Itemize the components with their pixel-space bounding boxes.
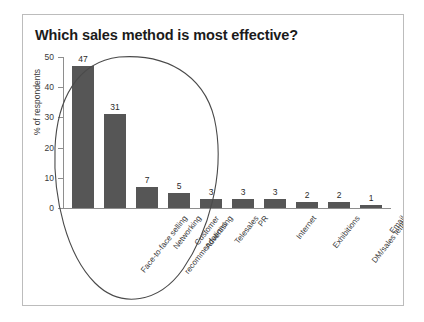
x-axis-line (63, 208, 391, 209)
y-tick-label: 40 (34, 82, 54, 92)
y-axis-line (63, 57, 64, 209)
bar (168, 193, 190, 208)
y-tick-mark (58, 208, 63, 209)
bar-value-label: 7 (130, 175, 164, 185)
y-tick-mark (58, 87, 63, 88)
x-category-label: Exhibitions (331, 214, 362, 250)
bar-value-label: 5 (162, 181, 196, 191)
y-axis-title: % of respondents (32, 54, 42, 150)
y-tick-label: 20 (34, 143, 54, 153)
y-tick-label: 10 (34, 173, 54, 183)
y-tick-label: 50 (34, 52, 54, 62)
bar (104, 114, 126, 208)
bar (72, 66, 94, 208)
bar (328, 202, 350, 208)
bar (200, 199, 222, 208)
y-tick-mark (58, 117, 63, 118)
bar-value-label: 31 (98, 102, 132, 112)
y-tick-label: 0 (34, 203, 54, 213)
chart-panel: Which sales method is most effective? % … (22, 14, 404, 306)
x-category-label: PR (256, 214, 270, 228)
bar-value-label: 1 (354, 193, 388, 203)
bar-chart-plot: % of respondents 01020304050 47Face-to-f… (23, 15, 403, 305)
y-tick-mark (58, 57, 63, 58)
bar-value-label: 2 (290, 190, 324, 200)
bar (264, 199, 286, 208)
bar-value-label: 3 (226, 187, 260, 197)
bar-value-label: 3 (258, 187, 292, 197)
bar (136, 187, 158, 208)
bar (232, 199, 254, 208)
x-category-label: Telesales (233, 214, 261, 246)
y-tick-mark (58, 148, 63, 149)
x-category-label: Internet (294, 214, 318, 241)
bar-value-label: 2 (322, 190, 356, 200)
bar-value-label: 3 (194, 187, 228, 197)
y-tick-label: 30 (34, 112, 54, 122)
bar (296, 202, 318, 208)
bar (360, 205, 382, 208)
y-tick-mark (58, 178, 63, 179)
bar-value-label: 47 (66, 54, 100, 64)
